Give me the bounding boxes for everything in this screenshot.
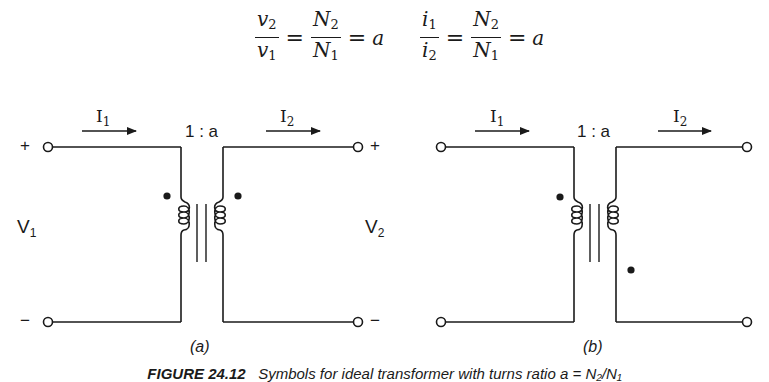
current-label-a-out: I2: [280, 106, 294, 129]
current-symbol: I: [673, 106, 680, 126]
circuit-b: [437, 131, 752, 327]
circuit-a: [44, 131, 363, 327]
voltage-symbol: V: [17, 216, 30, 237]
current-label-b-in: I1: [490, 106, 504, 129]
voltage-subscript: 2: [378, 226, 385, 240]
turns-ratio-b: 1 : a: [577, 122, 610, 142]
current-label-b-out: I2: [673, 106, 687, 129]
current-label-a-in: I1: [96, 106, 110, 129]
minus-sign-a-right: −: [370, 311, 380, 331]
plus-sign-a-left: +: [20, 136, 30, 156]
voltage-subscript: 1: [30, 226, 37, 240]
current-symbol: I: [96, 106, 103, 126]
subfigure-label-a: (a): [190, 338, 210, 356]
terminal-a-in-top: [44, 143, 53, 152]
caption-text: Symbols for ideal transformer with turns…: [258, 365, 622, 382]
terminal-a-out-top: [354, 143, 363, 152]
figure-number: FIGURE 24.12: [147, 365, 245, 382]
current-symbol: I: [280, 106, 287, 126]
current-subscript: 1: [497, 115, 505, 129]
voltage-symbol: V: [365, 216, 378, 237]
subfigure-label-b: (b): [583, 338, 603, 356]
current-symbol: I: [490, 106, 497, 126]
terminal-b-out-bottom: [743, 318, 752, 327]
voltage-label-a-in: V1: [17, 216, 36, 240]
current-subscript: 1: [103, 115, 111, 129]
current-subscript: 2: [680, 115, 688, 129]
polarity-dot-a-secondary: [234, 192, 241, 199]
terminal-b-out-top: [743, 143, 752, 152]
terminal-b-in-top: [437, 143, 446, 152]
terminal-a-in-bottom: [44, 318, 53, 327]
current-subscript: 2: [287, 115, 295, 129]
turns-ratio-a: 1 : a: [185, 122, 218, 142]
polarity-dot-b-secondary: [627, 266, 634, 273]
figure-caption: FIGURE 24.12 Symbols for ideal transform…: [0, 365, 769, 382]
voltage-label-a-out: V2: [365, 216, 384, 240]
plus-sign-a-right: +: [370, 136, 380, 156]
minus-sign-a-left: −: [20, 311, 30, 331]
polarity-dot-a-primary: [163, 192, 170, 199]
terminal-a-out-bottom: [354, 318, 363, 327]
terminal-b-in-bottom: [437, 318, 446, 327]
polarity-dot-b-primary: [556, 193, 563, 200]
